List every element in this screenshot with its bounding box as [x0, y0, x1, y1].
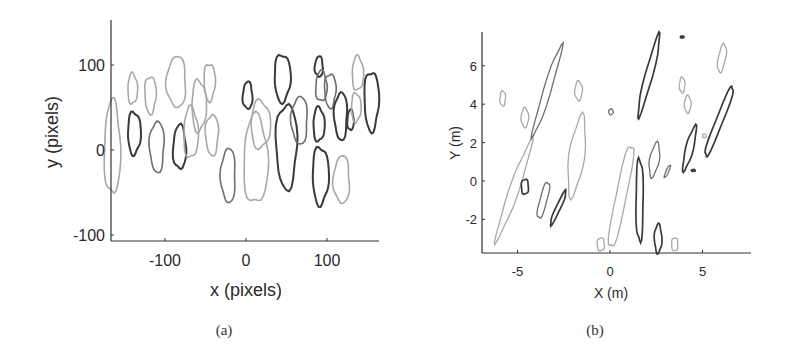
contour-blob [672, 238, 678, 251]
panel-b-contours [494, 32, 733, 254]
contour-blob [649, 141, 660, 178]
figure: -10001001000-100 x (pixels) y (pixels) (… [0, 0, 791, 362]
contour-blob [575, 81, 583, 102]
contour-blob [500, 90, 506, 106]
contour-blob [531, 43, 563, 139]
panel-a-x-label: x (pixels) [210, 280, 282, 300]
contour-blob [597, 238, 605, 252]
contour-blob [166, 57, 186, 108]
contour-blob [537, 182, 550, 218]
contour-blob [703, 134, 707, 138]
contour-blob [705, 86, 733, 157]
contour-blob [244, 111, 269, 201]
contour-blob [313, 147, 329, 207]
contour-blob [664, 165, 671, 177]
contour-blob [333, 156, 350, 204]
contour-blob [691, 169, 695, 171]
contour-blob [608, 147, 634, 246]
contour-blob [220, 148, 235, 202]
y-tick-label: 4 [470, 97, 477, 112]
contour-blob [149, 121, 164, 173]
contour-blob [128, 112, 141, 157]
y-tick-label: 2 [470, 136, 477, 151]
contour-blob [352, 55, 363, 90]
y-tick-label: 100 [78, 57, 105, 74]
x-tick-label: 5 [699, 264, 706, 279]
contour-blob [683, 124, 697, 172]
x-tick-label: 0 [242, 252, 251, 269]
y-tick-label: -2 [465, 212, 477, 227]
contour-blob [609, 109, 614, 115]
contour-blob [679, 77, 685, 93]
contour-blob [568, 112, 586, 200]
contour-blob [128, 72, 138, 104]
contour-blob [551, 190, 566, 227]
panel-b-x-label: X (m) [594, 285, 628, 301]
panel-a-y-label: y (pixels) [42, 96, 62, 168]
contour-blob [638, 32, 660, 119]
y-tick-label: 0 [96, 142, 105, 159]
contour-blob [314, 106, 325, 142]
contour-blob [204, 65, 215, 103]
contour-blob [242, 81, 252, 109]
panel-a-contours [104, 55, 379, 207]
x-tick-label: 100 [314, 252, 341, 269]
contour-blob [521, 179, 528, 194]
contour-blob [275, 55, 291, 104]
contour-blob [205, 115, 219, 157]
panel-a-ticks: -10001001000-100 [73, 57, 340, 269]
contour-blob [104, 98, 121, 193]
panel-a-caption: (a) [216, 322, 233, 339]
contour-blob [334, 92, 348, 140]
contour-blob [276, 104, 298, 191]
contour-blob [494, 137, 533, 245]
contour-blob [290, 96, 307, 144]
x-tick-label: 0 [606, 264, 613, 279]
y-tick-label: 6 [470, 59, 477, 74]
panel-a-plot: -10001001000-100 x (pixels) y (pixels) (… [42, 20, 379, 339]
panel-b-caption: (b) [586, 322, 604, 339]
y-tick-label: -100 [73, 227, 105, 244]
y-tick-label: 0 [470, 174, 477, 189]
x-tick-label: -100 [149, 252, 181, 269]
contour-blob [717, 43, 727, 73]
contour-blob [145, 77, 157, 115]
contour-blob [352, 93, 362, 124]
contour-blob [365, 73, 380, 134]
contour-blob [636, 158, 643, 243]
contour-blob [680, 36, 684, 38]
panel-b-plot: -5056420-2 X (m) Y (m) (b) [447, 32, 751, 339]
panel-b-y-label: Y (m) [447, 126, 463, 160]
x-tick-label: -5 [512, 264, 524, 279]
contour-blob [521, 107, 529, 128]
contour-blob [654, 223, 662, 254]
contour-blob [684, 95, 691, 114]
